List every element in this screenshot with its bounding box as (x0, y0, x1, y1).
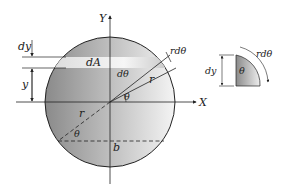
r-lower-label: r (79, 107, 85, 120)
dA-label: dA (86, 56, 101, 69)
dy-label: dy (18, 40, 32, 53)
theta-lower-label: θ (74, 128, 80, 139)
detail-element: dy θ rdθ (205, 47, 273, 86)
detail-dy-label: dy (205, 65, 217, 76)
y-axis-label: Y (99, 12, 108, 25)
dtheta-label: dθ (117, 68, 129, 79)
b-label: b (113, 141, 120, 154)
y-label: y (21, 78, 29, 91)
diagram-canvas: Y X dy y dA rdθ dθ r θ r θ b dy θ rdθ (0, 0, 289, 191)
detail-rdtheta-label: rdθ (256, 48, 273, 59)
rdtheta-label: rdθ (170, 45, 187, 56)
x-axis-label: X (198, 96, 208, 109)
detail-theta-label: θ (239, 65, 245, 76)
r-upper-label: r (149, 73, 155, 86)
